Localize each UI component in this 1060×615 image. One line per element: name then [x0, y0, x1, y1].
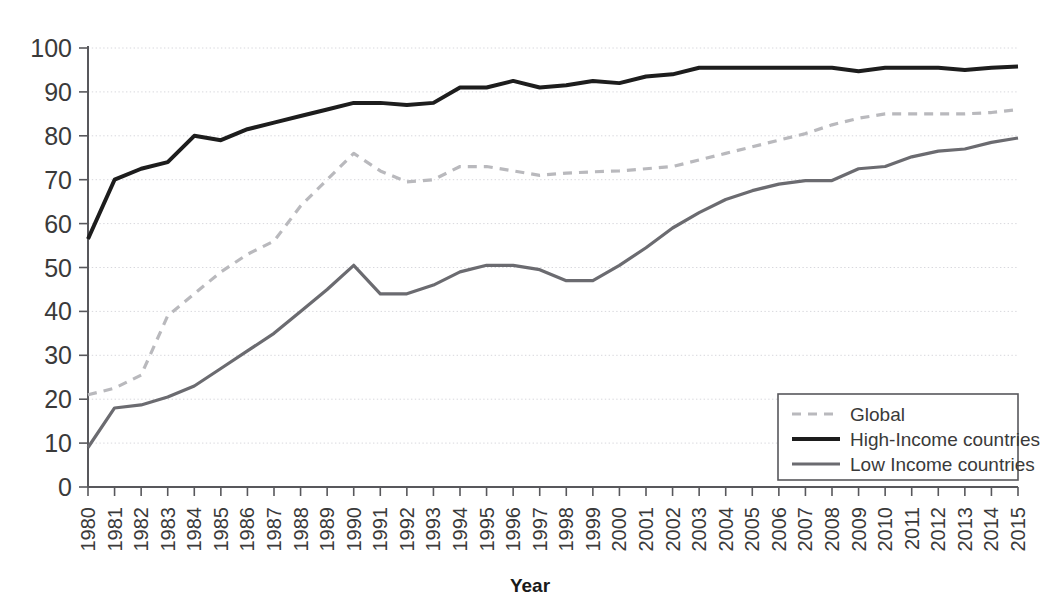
x-axis-tick-label: 2002 [662, 507, 684, 552]
x-axis-tick-label: 2014 [980, 507, 1002, 552]
x-axis-tick-label: 2003 [688, 507, 710, 552]
x-axis-tick-label: 2011 [901, 507, 923, 550]
x-axis-tick-label: 1991 [369, 507, 391, 552]
x-axis-tick-label: 1988 [290, 507, 312, 552]
data-series-group [88, 66, 1018, 447]
y-axis-tick-label: 100 [30, 34, 72, 62]
x-axis-tick-label: 2009 [848, 507, 870, 552]
x-axis-tick-label: 2001 [635, 507, 657, 552]
legend-label-1: Global [850, 404, 905, 425]
x-axis-tick-label: 2015 [1007, 507, 1029, 552]
x-axis-tick-label: 1995 [476, 507, 498, 552]
line-chart: 0102030405060708090100 19801981198219831… [0, 0, 1060, 615]
y-axis-tick-label: 60 [44, 210, 72, 238]
x-axis-tick-label: 1996 [502, 507, 524, 552]
x-axis-tick-label: 2010 [874, 507, 896, 552]
legend-label-3: Low Income countries [850, 454, 1035, 475]
y-axis-tick-label: 90 [44, 78, 72, 106]
y-axis-tick-label: 0 [58, 473, 72, 501]
x-axis-tick-label: 2000 [608, 507, 630, 552]
y-axis-tick-label: 40 [44, 297, 72, 325]
x-axis-tick-label: 1981 [104, 507, 126, 552]
x-axis-tick-label: 1980 [77, 507, 99, 552]
x-axis-tick-label: 1997 [529, 507, 551, 552]
x-axis-tick-label: 1989 [316, 507, 338, 552]
chart-svg: 0102030405060708090100 19801981198219831… [0, 0, 1060, 615]
chart-legend: GlobalHigh-Income countriesLow Income co… [778, 394, 1040, 480]
series-line-global [88, 109, 1018, 394]
x-axis-tick-label: 2007 [794, 507, 816, 552]
x-axis-ticks-group: 1980198119821983198419851986198719881989… [77, 487, 1029, 552]
x-axis-tick-label: 1984 [183, 507, 205, 552]
y-axis-tick-label: 20 [44, 385, 72, 413]
x-axis-tick-label: 1990 [343, 507, 365, 552]
x-axis-tick-label: 1992 [396, 507, 418, 552]
x-axis-tick-label: 1994 [449, 507, 471, 552]
x-axis-tick-label: 2013 [954, 507, 976, 552]
x-axis-tick-label: 2005 [741, 507, 763, 552]
x-axis-tick-label: 1986 [236, 507, 258, 552]
legend-label-2: High-Income countries [850, 429, 1040, 450]
x-axis-tick-label: 1983 [157, 507, 179, 552]
y-axis-tick-label: 80 [44, 122, 72, 150]
x-axis-tick-label: 2008 [821, 507, 843, 552]
y-axis-tick-label: 50 [44, 254, 72, 282]
gridlines-group [88, 48, 1018, 443]
x-axis-tick-label: 1987 [263, 507, 285, 552]
x-axis-tick-label: 2004 [715, 507, 737, 552]
x-axis-tick-label: 2006 [768, 507, 790, 552]
x-axis-tick-label: 1982 [130, 507, 152, 552]
y-axis-tick-label: 70 [44, 166, 72, 194]
y-axis-ticks-group: 0102030405060708090100 [30, 34, 88, 501]
x-axis-tick-label: 1999 [582, 507, 604, 552]
x-axis-tick-label: 1985 [210, 507, 232, 552]
y-axis-tick-label: 10 [44, 429, 72, 457]
x-axis-tick-label: 1998 [555, 507, 577, 552]
x-axis-tick-label: 2012 [927, 507, 949, 552]
y-axis-tick-label: 30 [44, 341, 72, 369]
x-axis-title: Year [510, 575, 551, 596]
x-axis-tick-label: 1993 [422, 507, 444, 552]
